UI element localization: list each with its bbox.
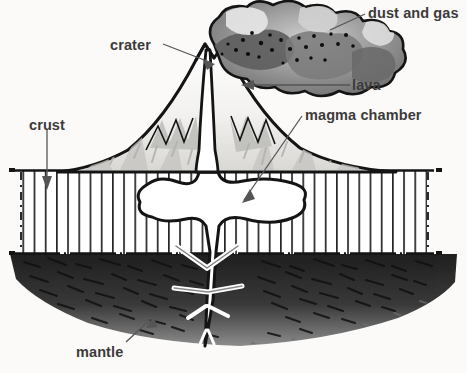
diagram-artwork [0,0,467,373]
label-mantle: mantle [76,345,123,360]
label-crater: crater [110,38,151,53]
label-crust: crust [29,118,65,133]
label-lava: lava [352,78,381,93]
label-magma-chamber: magma chamber [305,108,422,123]
volcano-diagram: dust and gas crater lava magma chamber c… [0,0,467,373]
label-dust-and-gas: dust and gas [368,6,459,21]
